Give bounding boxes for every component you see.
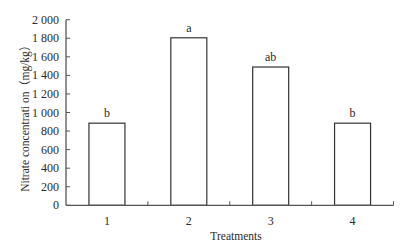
y-tick-label: 1 000 xyxy=(32,106,59,120)
y-tick-label: 2 000 xyxy=(32,13,59,27)
y-axis-title: Nitrate concentrati on（mg/kg） xyxy=(19,40,32,192)
x-axis-title: Treatments xyxy=(210,230,262,242)
y-tick-label: 400 xyxy=(41,161,59,175)
x-tick-label: 3 xyxy=(268,214,274,228)
y-tick-label: 1 200 xyxy=(32,87,59,101)
x-tick-label: 2 xyxy=(186,214,192,228)
bar xyxy=(253,67,289,205)
y-tick-label: 0 xyxy=(53,198,59,212)
bars: b1a2ab3b4 xyxy=(89,21,371,229)
y-tick-label: 800 xyxy=(41,124,59,138)
bar xyxy=(171,38,207,206)
significance-letter: b xyxy=(350,106,356,120)
y-tick-label: 1 800 xyxy=(32,31,59,45)
y-tick-label: 600 xyxy=(41,143,59,157)
y-tick-label: 200 xyxy=(41,180,59,194)
significance-letter: ab xyxy=(265,50,276,64)
bar xyxy=(89,123,125,205)
bar-chart: 02004006008001 0001 2001 4001 6001 8002 … xyxy=(0,0,411,250)
significance-letter: a xyxy=(186,21,192,35)
y-tick-label: 1 600 xyxy=(32,50,59,64)
y-tick-label: 1 400 xyxy=(32,68,59,82)
x-tick-label: 4 xyxy=(350,214,356,228)
significance-letter: b xyxy=(104,106,110,120)
x-tick-label: 1 xyxy=(104,214,110,228)
bar xyxy=(335,123,371,205)
y-axis-ticks: 02004006008001 0001 2001 4001 6001 8002 … xyxy=(32,13,70,213)
